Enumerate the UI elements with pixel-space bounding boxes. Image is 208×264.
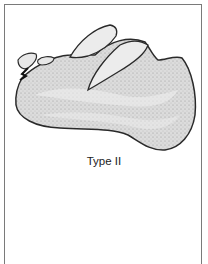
fragment-1: [18, 53, 37, 68]
bone-illustration: [0, 0, 208, 160]
figure-caption: Type II: [0, 155, 208, 167]
